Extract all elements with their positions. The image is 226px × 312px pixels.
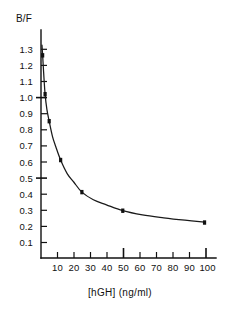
x-tick-label: 50 [118,262,129,273]
x-tick-label: 100 [199,262,215,273]
data-point [43,92,46,96]
data-point-group [41,53,206,225]
y-tick-label: 0.4 [19,189,33,200]
x-tick-label: 80 [168,262,179,273]
y-tick-label: 0.2 [19,221,33,232]
axis-lines [41,30,216,258]
y-tick-label: 1.1 [19,76,33,87]
y-axis-tick-labels: 0.1 0.2 0.3 0.4 0.5 0.6 0.7 0.8 0.9 1.0 … [19,44,33,248]
y-tick-label: 0.7 [19,140,33,151]
x-axis-ticks [58,248,207,258]
y-tick-label: 0.6 [19,157,33,168]
y-tick-label: 0.9 [19,108,33,119]
y-tick-label: 0.3 [19,205,33,216]
x-axis-tick-labels: 10 20 30 40 50 60 70 80 90 100 [52,262,215,273]
x-axis-title: [hGH] (ng/ml) [88,287,152,298]
data-point [121,209,124,213]
x-tick-label: 60 [135,262,146,273]
data-curve [42,45,205,222]
data-point [80,190,83,194]
y-tick-label: 1.3 [19,44,33,55]
y-tick-label: 1.0 [19,92,33,103]
x-tick-label: 30 [85,262,96,273]
y-tick-label: 0.5 [19,173,33,184]
data-point [48,119,51,123]
y-tick-label: 0.1 [19,237,33,248]
x-tick-label: 70 [151,262,162,273]
x-tick-label: 20 [69,262,80,273]
data-point [203,220,206,224]
x-tick-label: 10 [52,262,63,273]
x-tick-label: 40 [102,262,113,273]
y-tick-label: 1.2 [19,60,33,71]
x-tick-label: 90 [184,262,195,273]
data-point [59,158,62,162]
y-tick-label: 0.8 [19,124,33,135]
chart-figure: B/F 0.1 0.2 0.3 0.4 0. [0,0,226,312]
data-point [41,53,44,57]
chart-svg: B/F 0.1 0.2 0.3 0.4 0. [0,0,226,312]
y-axis-title: B/F [16,13,32,24]
